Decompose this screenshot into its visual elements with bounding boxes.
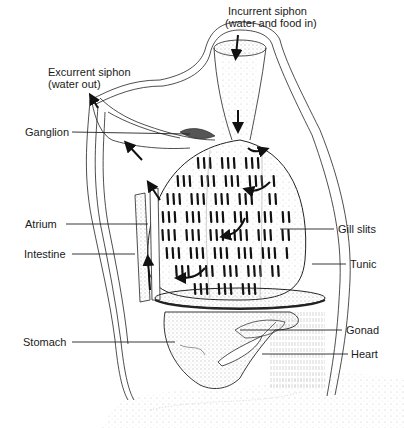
label-excurrent-siphon-line2: (water out): [48, 78, 101, 90]
intestine-tube: [135, 188, 160, 302]
label-intestine: Intestine: [24, 248, 66, 260]
label-ganglion: Ganglion: [25, 126, 69, 138]
base-disc: [155, 288, 325, 309]
incurrent-siphon: [214, 40, 266, 140]
label-atrium: Atrium: [25, 218, 57, 230]
label-incurrent-siphon-line1: Incurrent siphon: [228, 5, 307, 17]
tunicate-anatomy-diagram: Incurrent siphon (water and food in) Exc…: [0, 0, 404, 428]
label-gonad: Gonad: [346, 324, 379, 336]
substrate: [100, 373, 404, 428]
label-heart: Heart: [351, 348, 378, 360]
diagram-illustration: [0, 0, 404, 428]
label-gill-slits: Gill slits: [338, 223, 376, 235]
label-stomach: Stomach: [23, 336, 66, 348]
label-incurrent-siphon-line2: (water and food in): [225, 17, 317, 29]
gill-basket: [148, 140, 306, 300]
excurrent-siphon: [92, 98, 215, 149]
label-excurrent-siphon-line1: Excurrent siphon: [48, 66, 131, 78]
label-tunic: Tunic: [350, 258, 377, 270]
